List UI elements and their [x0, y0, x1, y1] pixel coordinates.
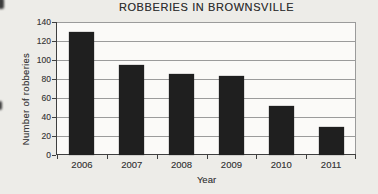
bar-2006	[69, 32, 94, 156]
bar-2008	[169, 74, 194, 155]
x-tick-label-2010: 2010	[256, 159, 306, 170]
y-tick-label-100: 100	[29, 55, 51, 65]
gridline-120	[57, 41, 356, 42]
bar-2011	[319, 127, 344, 156]
x-tick-label-2006: 2006	[57, 159, 107, 170]
plot-right-border	[355, 22, 356, 155]
gridline-40	[57, 117, 356, 118]
x-tick-label-2007: 2007	[107, 159, 157, 170]
bar-2010	[269, 106, 294, 155]
y-tick-label-120: 120	[29, 36, 51, 46]
gridline-80	[57, 79, 356, 80]
scan-smudge	[0, 0, 4, 9]
y-tick-label-140: 140	[29, 17, 51, 27]
y-tick-label-80: 80	[29, 74, 51, 84]
gridline-100	[57, 60, 356, 61]
x-tick-label-2009: 2009	[207, 159, 257, 170]
gridline-140	[57, 22, 356, 23]
chart-title: ROBBERIES IN BROWNSVILLE	[57, 1, 356, 13]
gridline-60	[57, 98, 356, 99]
bar-2007	[119, 65, 144, 155]
y-tick-label-0: 0	[29, 150, 51, 160]
y-tick-label-20: 20	[29, 131, 51, 141]
x-axis-title: Year	[57, 174, 356, 185]
y-tick-label-60: 60	[29, 93, 51, 103]
y-tick-label-40: 40	[29, 112, 51, 122]
scanned-bar-chart: ROBBERIES IN BROWNSVILLE Number of robbe…	[0, 0, 378, 194]
x-tick-label-2011: 2011	[306, 159, 356, 170]
x-tick-label-2008: 2008	[157, 159, 207, 170]
y-axis-line	[56, 22, 57, 155]
bar-2009	[219, 76, 244, 155]
gridline-20	[57, 136, 356, 137]
scan-smudge	[0, 101, 2, 110]
plot-area: 0204060801001201402006200720082009201020…	[57, 22, 356, 155]
